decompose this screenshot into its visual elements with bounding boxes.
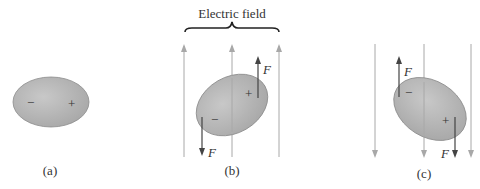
force-label-down-b: F: [207, 145, 217, 160]
negative-charge-b: −: [211, 112, 218, 127]
positive-charge-b: +: [245, 86, 252, 101]
panel-b: Electric field − + F F (b): [181, 6, 282, 178]
panel-c: − + F F (c): [372, 44, 478, 181]
electric-field-title: Electric field: [198, 6, 266, 21]
panel-a: − + (a): [13, 77, 89, 178]
positive-charge-c: +: [442, 113, 449, 128]
caption-c: (c): [417, 166, 431, 181]
molecule-a: [13, 77, 89, 127]
negative-charge-a: −: [27, 95, 34, 110]
molecule-c: [382, 65, 478, 154]
negative-charge-c: −: [405, 85, 412, 100]
caption-a: (a): [43, 163, 57, 178]
positive-charge-a: +: [68, 96, 75, 111]
force-label-up-b: F: [262, 62, 272, 77]
caption-b: (b): [224, 163, 239, 178]
force-label-down-c: F: [440, 146, 450, 161]
force-label-up-c: F: [403, 64, 413, 79]
brace-icon: [185, 22, 279, 32]
dipole-diagram: − + (a) Electric field − + F F: [0, 0, 480, 189]
